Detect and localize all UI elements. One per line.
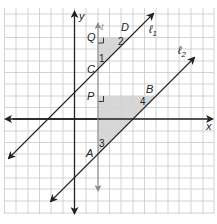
- line-l1-subscript: 1: [153, 29, 157, 38]
- point-Q-label: Q: [87, 31, 96, 43]
- y-axis-label: y: [78, 10, 86, 22]
- point-A-label: A: [85, 147, 93, 159]
- line-l1: [80, 14, 153, 87]
- angle-4-label: 4: [140, 96, 146, 107]
- coordinate-diagram: y x t ℓ1 ℓ2 Q D C P B A 1 2 3 4: [0, 0, 217, 224]
- point-P-label: P: [87, 90, 95, 102]
- line-t-label: t: [101, 22, 104, 32]
- line-l2: [120, 58, 194, 132]
- point-C-label: C: [87, 63, 95, 75]
- line-l2-subscript: 2: [181, 50, 187, 59]
- angle-2-label: 2: [118, 36, 124, 47]
- angle-3-label: 3: [99, 138, 105, 149]
- point-B-label: B: [146, 83, 153, 95]
- x-axis-label: x: [205, 120, 212, 132]
- line-l1-neg: [9, 87, 80, 158]
- line-l2-label: ℓ2: [177, 44, 187, 59]
- point-D-label: D: [121, 21, 129, 33]
- angle-1-label: 1: [99, 53, 105, 64]
